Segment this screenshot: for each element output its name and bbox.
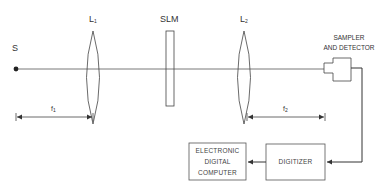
sampler-detector — [324, 58, 351, 81]
lens-2 — [238, 31, 251, 124]
lens-1-label: L1 — [89, 15, 97, 24]
lens-2-subscript: 2 — [245, 18, 248, 24]
lens-2-label: L2 — [240, 15, 248, 24]
slm-plate — [166, 31, 174, 106]
computer-label-line2: DIGITAL — [189, 156, 246, 167]
focal-length-1-dimension — [16, 113, 93, 121]
signal-wire — [327, 68, 362, 162]
focal-1-subscript: 1 — [53, 107, 56, 113]
detector-label-line2: AND DETECTOR — [318, 43, 379, 53]
lens-1-subscript: 1 — [94, 18, 97, 24]
source-label-text: S — [12, 43, 18, 53]
computer-label-line1: ELECTRONIC — [189, 145, 246, 156]
computer-label-line3: COMPUTER — [189, 167, 246, 178]
focal-length-2-dimension — [247, 113, 325, 121]
computer-label: ELECTRONIC DIGITAL COMPUTER — [189, 145, 246, 178]
digitizer-label: DIGITIZER — [266, 156, 325, 167]
focal-2-subscript: 2 — [285, 107, 288, 113]
source-point — [14, 67, 19, 72]
detector-label-line1: SAMPLER — [318, 33, 379, 43]
focal-length-1-label: f1 — [51, 105, 56, 113]
slm-label: SLM — [160, 15, 179, 24]
source-label: S — [12, 44, 18, 53]
focal-length-2-label: f2 — [283, 105, 288, 113]
slm-label-text: SLM — [160, 14, 179, 24]
lens-1 — [87, 31, 100, 124]
detector-label: SAMPLER AND DETECTOR — [318, 33, 379, 53]
digitizer-label-text: DIGITIZER — [279, 158, 313, 165]
